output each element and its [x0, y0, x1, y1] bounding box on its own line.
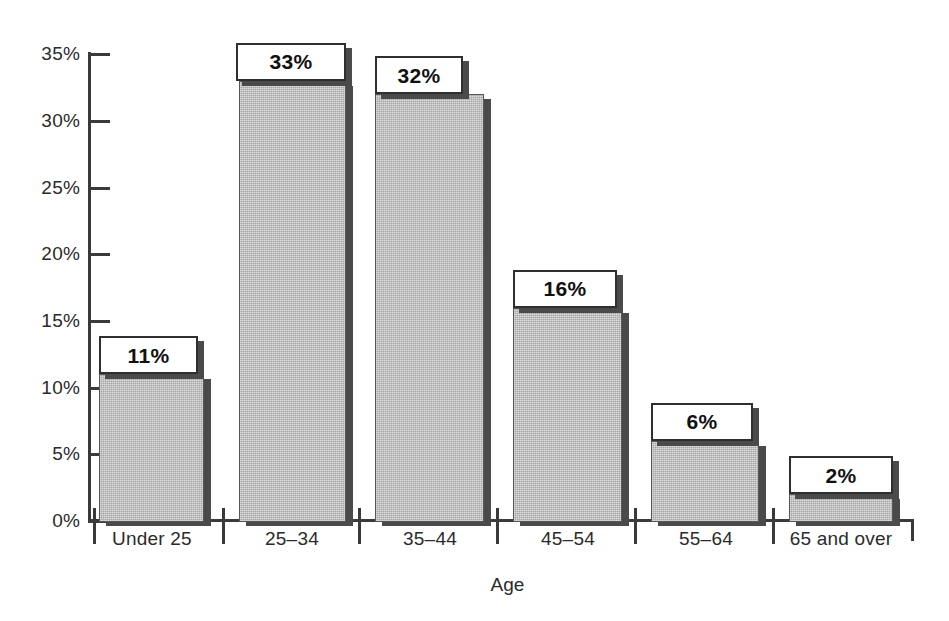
y-axis-tick-label: 5% [52, 443, 80, 465]
y-axis-tick [89, 53, 110, 56]
value-label-box: 33% [236, 43, 346, 81]
bar-rect [513, 308, 622, 522]
y-axis-tick-label: 20% [41, 243, 80, 265]
value-label-box: 32% [375, 56, 463, 94]
value-label-text: 32% [398, 65, 441, 86]
value-label-text: 11% [128, 345, 170, 366]
value-label-text: 6% [687, 411, 718, 432]
bar-chart: 0%5%10%15%20%25%30%35% Under 2525–3435–4… [0, 0, 949, 621]
y-axis-tick [89, 320, 110, 323]
x-axis-title: Age [0, 574, 949, 596]
y-axis-tick-label: 25% [41, 177, 80, 199]
x-axis-title-text: Age [491, 574, 525, 595]
y-axis-tick [89, 253, 110, 256]
y-axis-tick-label: 15% [41, 310, 80, 332]
bar-rect [239, 81, 346, 522]
bar-rect [651, 441, 759, 522]
y-axis-tick-label: 10% [41, 377, 80, 399]
y-axis-tick-label: 30% [41, 110, 80, 132]
bar-rect [375, 94, 484, 522]
bar-rect [99, 374, 204, 522]
value-label-text: 33% [270, 51, 313, 72]
y-axis-tick-label: 35% [41, 43, 80, 65]
value-label-box: 2% [789, 456, 893, 494]
value-label-box: 16% [513, 270, 617, 308]
y-axis-tick [89, 120, 110, 123]
y-axis-tick [89, 187, 110, 190]
value-label-text: 16% [544, 278, 587, 299]
value-label-text: 2% [826, 465, 857, 486]
value-label-box: 11% [99, 336, 198, 374]
value-label-box: 6% [651, 403, 753, 441]
x-axis-category-label: 65 and over [731, 528, 949, 550]
